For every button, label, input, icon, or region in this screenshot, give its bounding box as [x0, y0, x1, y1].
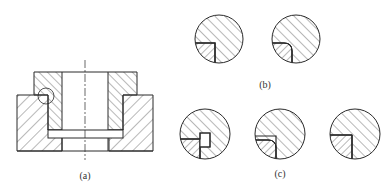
detail-b2-rounded-corner: [265, 10, 330, 70]
detail-c3-chamfer-relief: [325, 105, 385, 165]
technical-drawing: (a) (b): [0, 0, 391, 196]
detail-b1-sharp-corner: [190, 10, 250, 70]
detail-c1-square-relief: [175, 105, 235, 165]
label-a: (a): [79, 170, 90, 182]
label-c: (c): [274, 168, 285, 180]
panel-a-bushing-section: [17, 60, 153, 160]
detail-c2-radius-relief: [250, 105, 310, 165]
label-b: (b): [259, 79, 271, 91]
